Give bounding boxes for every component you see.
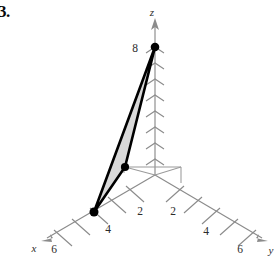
- vertex-dot-mid: [121, 163, 129, 171]
- z-axis-label: z: [149, 6, 155, 18]
- z-tick-label-8: 8: [132, 42, 138, 54]
- y-axis-ticks: [166, 186, 256, 246]
- y-tick-label-4: 4: [203, 225, 209, 237]
- x-tick-label-6: 6: [51, 243, 57, 255]
- coordinate-axes-svg: z x y 8 4 6 2 2 4 6: [0, 0, 277, 259]
- y-axis-label: y: [268, 244, 274, 256]
- projection-lines: [124, 161, 181, 183]
- x-axis-label: x: [31, 242, 37, 254]
- y-tick-label-2: 2: [170, 205, 176, 217]
- shaded-triangle: [94, 47, 155, 212]
- xy-tick-label-2: 2: [137, 205, 143, 217]
- vertex-dot-z8: [151, 43, 160, 52]
- triangle-outline: [94, 47, 155, 212]
- y-tick-label-6: 6: [237, 243, 243, 255]
- vertex-dot-x: [90, 208, 99, 217]
- x-tick-label-4: 4: [105, 223, 111, 235]
- figure-3d-coordinate-plot: 3.: [0, 0, 277, 259]
